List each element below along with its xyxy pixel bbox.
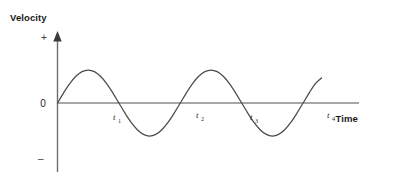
tick-label-t3: t 3 bbox=[250, 112, 258, 124]
tick-label-t1-base: t bbox=[113, 112, 116, 122]
tick-label-t2: t 2 bbox=[196, 110, 204, 122]
x-axis-title: Time bbox=[336, 113, 358, 124]
negative-sign-label: – bbox=[38, 153, 44, 164]
tick-label-t3-sub: 3 bbox=[255, 117, 258, 124]
origin-label: 0 bbox=[40, 98, 46, 109]
figure-canvas: Velocity + – 0 t 1 t 2 t 3 t 4 Time bbox=[0, 0, 406, 182]
tick-label-t4-base: t bbox=[327, 110, 330, 120]
tick-label-t1: t 1 bbox=[113, 112, 121, 124]
y-axis-title: Velocity bbox=[10, 12, 47, 23]
velocity-axis bbox=[53, 31, 61, 172]
velocity-time-graph-figure: Velocity + – 0 t 1 t 2 t 3 t 4 Time bbox=[0, 0, 406, 182]
tick-label-t2-base: t bbox=[196, 110, 199, 120]
velocity-axis-arrowhead bbox=[53, 31, 61, 42]
tick-label-t2-sub: 2 bbox=[201, 115, 204, 122]
tick-label-t4: t 4 bbox=[327, 110, 335, 122]
tick-label-t1-sub: 1 bbox=[118, 117, 121, 124]
positive-sign-label: + bbox=[41, 32, 47, 43]
